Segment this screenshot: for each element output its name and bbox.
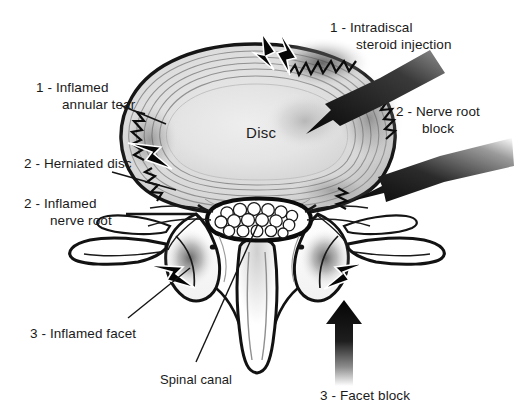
cauda-equina-nerve-roots [215, 203, 298, 238]
label-inflamed-annular-tear-line1: 1 - Inflamed [36, 80, 108, 96]
label-inflamed-facet: 3 - Inflamed facet [30, 326, 136, 342]
right-superior-articular-process [344, 215, 417, 234]
inflammation-bottom-right [290, 172, 374, 208]
label-inflamed-nerve-root-line1: 2 - Inflamed [24, 196, 96, 212]
label-spinal-canal: Spinal canal [160, 372, 232, 388]
label-inflamed-annular-tear-line2: annular tear [62, 97, 135, 113]
label-intradiscal-injection-line1: 1 - Intradiscal [330, 20, 413, 36]
figure-canvas: Disc 1 - Inflamed annular tear 2 - Herni… [0, 0, 514, 415]
arrow-facet-block [326, 300, 362, 386]
label-nerve-root-block-line2: block [422, 121, 454, 137]
disc-label: Disc [246, 124, 276, 141]
label-herniated-disc: 2 - Herniated disc [24, 156, 132, 172]
label-intradiscal-injection-line2: steroid injection [356, 37, 452, 53]
right-transverse-process [348, 238, 444, 264]
left-nutrient-foramen [210, 244, 216, 249]
label-inflamed-nerve-root-line2: nerve root [50, 213, 112, 229]
left-transverse-process [70, 238, 166, 264]
label-facet-block: 3 - Facet block [320, 388, 410, 404]
label-nerve-root-block-line1: 2 - Nerve root [396, 104, 480, 120]
right-nutrient-foramen [298, 244, 304, 249]
